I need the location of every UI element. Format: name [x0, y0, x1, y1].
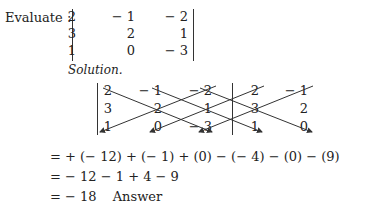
up-diagonal-arrow: [199, 86, 313, 132]
down-diagonal-arrow: [200, 88, 312, 132]
final-result: = − 18: [50, 189, 97, 204]
up-diagonal-arrow: [150, 86, 264, 132]
solution-step-1: = + (− 12) + (− 1) + (0) − (− 4) − (0) −…: [50, 149, 340, 165]
up-diagonal-arrow: [100, 86, 216, 132]
answer-label: Answer: [113, 189, 162, 204]
solution-step-3: = − 18 Answer: [50, 189, 162, 205]
solution-step-2: = − 12 − 1 + 4 − 9: [50, 169, 179, 185]
down-diagonal-arrow: [152, 88, 262, 132]
